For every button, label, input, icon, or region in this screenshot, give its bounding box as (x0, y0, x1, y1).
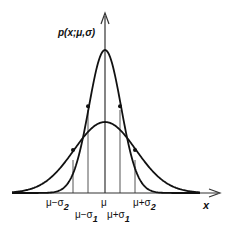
tick-base: μ−σ (75, 209, 93, 220)
gaussian-diagram: p(x;μ,σ) x μ−σ2 μ−σ1 μ μ+σ1 μ+σ2 (0, 0, 228, 238)
y-axis (101, 13, 109, 193)
inflection-point-wide-right (133, 148, 137, 152)
tick-label-mu-minus-sigma1: μ−σ1 (75, 210, 98, 224)
tick-sub: 1 (93, 214, 98, 224)
tick-base: μ+σ (107, 209, 125, 220)
y-axis-label: p(x;μ,σ) (58, 28, 95, 38)
tick-base: μ+σ (133, 197, 151, 208)
tick-sub: 1 (125, 214, 130, 224)
tick-label-mu-minus-sigma2: μ−σ2 (46, 198, 69, 212)
x-axis-label: x (203, 200, 209, 211)
tick-base: μ−σ (46, 197, 64, 208)
tick-label-mu-plus-sigma1: μ+σ1 (107, 210, 130, 224)
tick-sub: 2 (151, 202, 156, 212)
tick-sub: 2 (64, 202, 69, 212)
inflection-point-narrow-right (118, 104, 122, 108)
inflection-point-narrow-left (86, 104, 90, 108)
tick-label-mu-plus-sigma2: μ+σ2 (133, 198, 156, 212)
diagram-canvas (0, 0, 228, 238)
inflection-point-wide-left (71, 148, 75, 152)
wide-gaussian-curve (12, 122, 200, 192)
tick-label-mu: μ (101, 198, 107, 208)
